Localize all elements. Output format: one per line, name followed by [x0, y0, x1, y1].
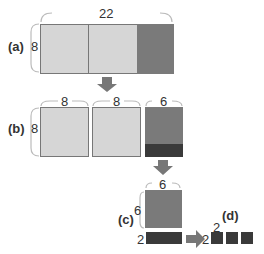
- block-d-2: [226, 232, 238, 244]
- block-d-1: [211, 232, 223, 244]
- arrow-b-to-c: [153, 160, 173, 175]
- dimension-b-height: 8: [31, 122, 38, 135]
- dimension-d-height: 2: [202, 233, 209, 246]
- block-a-2: [88, 24, 138, 74]
- arrow-a-to-b: [97, 77, 117, 92]
- block-b-3-strip: [145, 144, 183, 157]
- panel-label-a: (a): [8, 40, 24, 53]
- block-b-1: [40, 107, 89, 157]
- block-a-3: [137, 24, 174, 74]
- dimension-c-height: 6: [134, 204, 141, 217]
- block-b-2: [92, 107, 141, 157]
- panel-label-c: (c): [118, 213, 134, 226]
- block-b-3-top: [145, 107, 183, 144]
- panel-label-d: (d): [222, 209, 239, 222]
- dimension-a-height: 8: [31, 40, 38, 53]
- block-c-square: [145, 190, 182, 228]
- dimension-a-width: 22: [99, 7, 113, 20]
- dimension-c-strip-height: 2: [137, 233, 144, 246]
- block-c-strip: [146, 232, 182, 244]
- panel-label-b: (b): [8, 122, 25, 135]
- block-a-1: [40, 24, 90, 74]
- block-d-3: [241, 232, 253, 244]
